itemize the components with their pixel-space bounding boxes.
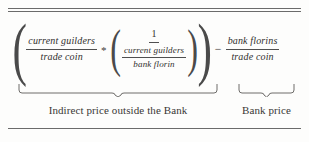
fraction-numerator: 1 [149,28,158,43]
fraction-numerator: bank florins [226,35,280,50]
fraction-reciprocal: 1 current guilders bank florin [120,28,188,70]
fraction-numerator: current guilders [26,35,97,50]
label-bank-price: Bank price [238,104,295,116]
nested-fraction-current-guilders-per-bank-florin: current guilders bank florin [122,45,186,71]
fraction-current-guilders-per-trade-coin: current guilders trade coin [26,35,97,63]
fraction-bank-florins-per-trade-coin: bank florins trade coin [226,35,280,63]
equation-figure: ( current guilders trade coin * ( 1 curr… [0,0,309,142]
underbrace-indirect-price [18,84,218,97]
top-rule-upper [8,8,301,9]
multiplication-operator: * [97,45,111,56]
label-indirect-price-outside-bank: Indirect price outside the Bank [18,104,218,116]
inner-open-paren: ( [110,23,121,75]
top-rule-lower [8,11,301,12]
underbrace-bank-price [238,84,295,97]
outer-open-paren: ( [12,14,26,84]
equation-expression: ( current guilders trade coin * ( 1 curr… [0,18,309,80]
fraction-denominator: current guilders bank florin [120,43,188,71]
bottom-rule [8,128,301,129]
fraction-denominator: trade coin [229,50,275,64]
nested-fraction-numerator: current guilders [122,45,186,58]
subtraction-operator: − [211,42,226,57]
outer-close-paren: ) [197,14,211,84]
fraction-denominator: trade coin [39,50,85,64]
nested-fraction-denominator: bank florin [131,58,176,70]
